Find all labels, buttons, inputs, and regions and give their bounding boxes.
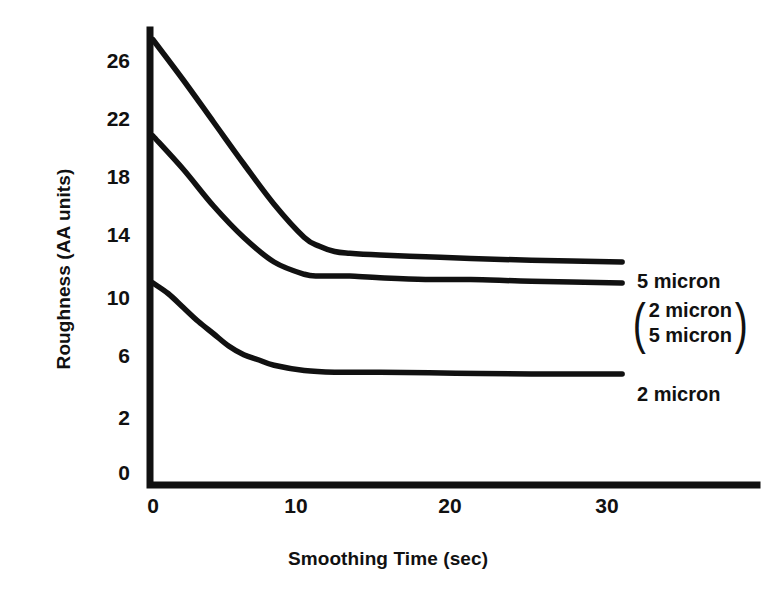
series-label-2-micron-bottom: 2 micron — [637, 383, 720, 406]
group-label-line-1: 2 micron — [649, 298, 732, 323]
series-line-1 — [153, 40, 622, 262]
series-label-group-2-and-5-micron: ( 2 micron 5 micron ) — [630, 298, 751, 348]
data-series-group — [153, 40, 622, 374]
group-label-lines: 2 micron 5 micron — [649, 298, 732, 348]
chart-figure: Roughness (AA units) Smoothing Time (sec… — [0, 0, 775, 614]
group-open-paren: ( — [633, 301, 646, 345]
series-line-3 — [153, 283, 622, 374]
group-close-paren: ) — [735, 301, 748, 345]
series-label-5-micron-top: 5 micron — [637, 270, 720, 293]
group-label-line-2: 5 micron — [649, 323, 732, 348]
